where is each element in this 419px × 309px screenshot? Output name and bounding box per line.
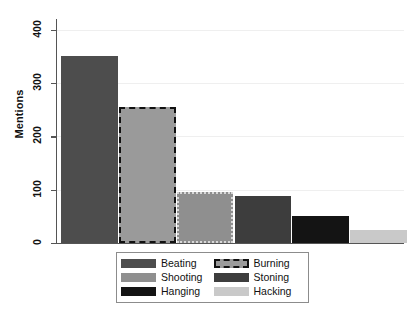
legend-item-shooting[interactable]: Shooting: [121, 271, 212, 283]
bar-hacking: [350, 230, 407, 243]
tick-mark-400: [51, 30, 56, 31]
bar-shooting: [292, 216, 349, 243]
y-tick-label-0: 0: [31, 231, 43, 253]
legend: BeatingBurningShootingStoningHangingHack…: [116, 252, 309, 303]
y-tick-label-400: 400: [31, 18, 43, 40]
bar-beating: [61, 56, 118, 243]
legend-swatch-icon: [214, 273, 249, 282]
plot-area: 4003002001000: [56, 19, 404, 243]
bar-hanging: [177, 192, 234, 243]
legend-label: Beating: [161, 257, 197, 269]
bar-stoning: [235, 196, 292, 243]
y-axis-title: Mentions: [13, 59, 25, 169]
tick-mark-300: [51, 83, 56, 84]
legend-label: Hanging: [161, 285, 200, 297]
legend-label: Hacking: [254, 285, 292, 297]
bar-burning: [119, 107, 176, 243]
y-tick-label-300: 300: [31, 71, 43, 93]
y-tick-label-200: 200: [31, 124, 43, 146]
legend-swatch-icon: [214, 259, 249, 268]
legend-swatch-icon: [121, 287, 156, 296]
legend-item-hacking[interactable]: Hacking: [214, 285, 305, 297]
legend-entries: BeatingBurningShootingStoningHangingHack…: [121, 256, 304, 298]
legend-swatch-icon: [121, 259, 156, 268]
x-axis-line: [56, 243, 404, 244]
legend-item-burning[interactable]: Burning: [214, 257, 305, 269]
legend-swatch-icon: [214, 287, 249, 296]
tick-mark-200: [51, 136, 56, 137]
legend-swatch-icon: [121, 273, 156, 282]
legend-label: Stoning: [254, 271, 290, 283]
y-tick-label-100: 100: [31, 178, 43, 200]
legend-item-stoning[interactable]: Stoning: [214, 271, 305, 283]
legend-label: Burning: [254, 257, 290, 269]
tick-mark-0: [51, 243, 56, 244]
bar-chart: Mentions 4003002001000 BeatingBurningSho…: [0, 0, 419, 309]
legend-item-beating[interactable]: Beating: [121, 257, 212, 269]
legend-label: Shooting: [161, 271, 202, 283]
tick-mark-100: [51, 190, 56, 191]
legend-item-hanging[interactable]: Hanging: [121, 285, 212, 297]
bar-series: [57, 19, 404, 243]
